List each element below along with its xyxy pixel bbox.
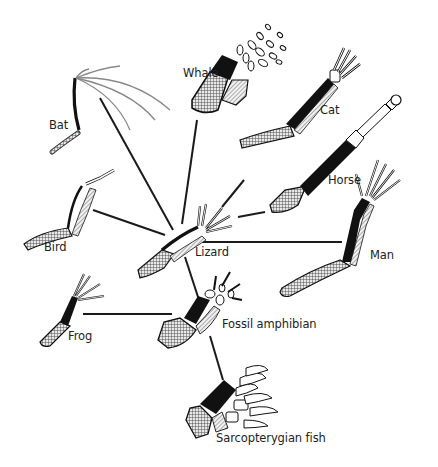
- sarcopterygian-fish-fin: [186, 365, 278, 438]
- edge-lizard-horse: [238, 212, 265, 217]
- label-cat: Cat: [320, 103, 339, 117]
- label-whale: Whale: [183, 66, 218, 80]
- connector-lines: [83, 98, 342, 380]
- edge-lizard-bat: [100, 98, 173, 230]
- diagram-canvas: [0, 0, 438, 467]
- label-lizard: Lizard: [195, 245, 229, 259]
- label-frog: Frog: [68, 329, 92, 343]
- edge-fossil-fish: [210, 336, 223, 380]
- label-sarcopterygian-fish: Sarcopterygian fish: [216, 431, 326, 445]
- label-bird: Bird: [44, 240, 67, 254]
- edge-lizard-bird: [93, 210, 165, 235]
- label-horse: Horse: [328, 173, 361, 187]
- homology-diagram: Bat Whale Cat Horse Bird Lizard Man Frog…: [0, 0, 438, 467]
- fossil-amphibian-forelimb: [158, 272, 242, 348]
- label-man: Man: [370, 248, 394, 262]
- edge-lizard-fossil: [185, 257, 199, 300]
- cat-forelimb: [240, 48, 360, 148]
- edge-lizard-cat: [222, 180, 244, 207]
- label-bat: Bat: [49, 118, 68, 132]
- bat-forelimb: [52, 66, 170, 152]
- label-fossil-amphibian: Fossil amphibian: [222, 317, 317, 331]
- edge-lizard-whale: [182, 120, 197, 224]
- bird-forelimb: [24, 170, 114, 250]
